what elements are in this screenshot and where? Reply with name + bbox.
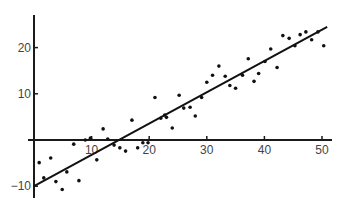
- x-tick-label: 20: [143, 143, 157, 157]
- data-point: [65, 170, 69, 174]
- data-point: [136, 146, 140, 150]
- data-point: [304, 30, 308, 34]
- data-point: [298, 33, 302, 37]
- data-point: [130, 118, 134, 122]
- y-tick-label: −10: [11, 179, 32, 193]
- data-point: [200, 96, 204, 100]
- data-point: [106, 137, 110, 141]
- data-point: [322, 44, 326, 48]
- data-point: [101, 127, 105, 131]
- data-point: [54, 180, 58, 184]
- data-point: [217, 64, 221, 68]
- data-point: [252, 80, 256, 84]
- y-tick-label: 20: [18, 41, 32, 55]
- data-point: [281, 34, 285, 38]
- data-point: [95, 158, 99, 162]
- data-point: [77, 179, 81, 183]
- y-tick-label: 10: [18, 87, 32, 101]
- data-point: [141, 141, 145, 145]
- data-point: [72, 142, 76, 146]
- data-point: [316, 30, 320, 34]
- data-point: [146, 141, 150, 145]
- data-points: [37, 30, 325, 191]
- data-point: [234, 86, 238, 90]
- data-point: [275, 66, 279, 70]
- tick-labels: 1020304050−101020: [11, 41, 329, 194]
- data-point: [60, 188, 64, 192]
- data-point: [49, 156, 53, 160]
- x-tick-label: 40: [258, 143, 272, 157]
- data-point: [37, 161, 41, 165]
- data-point: [257, 72, 261, 76]
- data-point: [182, 106, 186, 110]
- data-point: [165, 116, 169, 120]
- x-tick-label: 30: [200, 143, 214, 157]
- data-point: [269, 47, 273, 51]
- data-point: [159, 116, 163, 120]
- data-point: [89, 136, 93, 140]
- data-point: [153, 96, 157, 100]
- data-point: [42, 176, 46, 180]
- data-point: [293, 44, 297, 48]
- data-point: [177, 93, 181, 97]
- data-point: [124, 149, 128, 153]
- data-point: [228, 84, 232, 88]
- scatter-chart: 1020304050−101020: [0, 0, 343, 208]
- data-point: [287, 37, 291, 41]
- fit-line: [34, 27, 327, 186]
- data-point: [188, 105, 192, 109]
- data-point: [263, 60, 267, 64]
- data-point: [193, 114, 197, 118]
- data-point: [241, 74, 245, 78]
- data-point: [246, 57, 250, 61]
- data-point: [118, 146, 122, 150]
- data-point: [83, 138, 87, 142]
- data-point: [223, 74, 227, 78]
- data-point: [112, 143, 116, 147]
- data-point: [205, 80, 209, 84]
- x-tick-label: 50: [315, 143, 329, 157]
- data-point: [211, 74, 215, 78]
- data-point: [310, 38, 314, 42]
- data-point: [170, 126, 174, 130]
- regression-line: [34, 27, 327, 186]
